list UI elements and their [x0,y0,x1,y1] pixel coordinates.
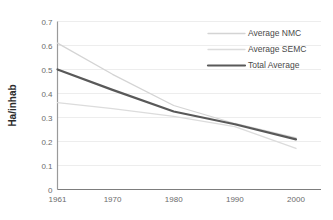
x-tick-label: 1980 [165,195,183,204]
x-tick-label: 2000 [287,195,305,204]
legend-label: Average SEMC [248,44,306,54]
y-tick-label: 0.6 [41,42,53,51]
y-axis-title: Ha/inhab [7,84,18,126]
y-tick-label: 0.2 [41,138,53,147]
line-chart: 00.10.20.30.40.50.60.7 19611970198019902… [0,0,333,220]
y-axis-tick-labels: 00.10.20.30.40.50.60.7 [41,18,53,195]
x-tick-label: 1961 [49,195,67,204]
x-tick-label: 1990 [226,195,244,204]
x-axis-tick-labels: 19611970198019902000 [49,195,306,204]
x-tick-label: 1970 [104,195,122,204]
y-axis-title-label: Ha/inhab [7,84,18,126]
series-line [58,43,297,138]
y-tick-label: 0.4 [41,90,53,99]
legend-label: Total Average [248,60,300,70]
y-tick-label: 0.1 [41,162,53,171]
legend: Average NMCAverage SEMCTotal Average [208,28,306,70]
legend-label: Average NMC [248,28,301,38]
y-tick-label: 0.3 [41,114,53,123]
y-tick-label: 0 [48,186,53,195]
y-tick-label: 0.5 [41,66,53,75]
chart-container: 00.10.20.30.40.50.60.7 19611970198019902… [0,0,333,220]
y-tick-label: 0.7 [41,18,53,27]
